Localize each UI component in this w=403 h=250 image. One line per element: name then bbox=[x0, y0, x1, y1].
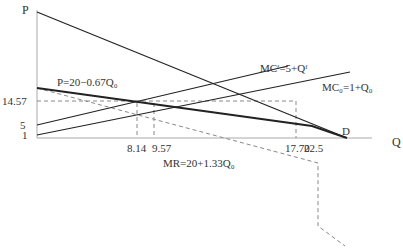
y-tick-14-57: 14.57 bbox=[2, 95, 27, 107]
x-axis-label: Q bbox=[392, 135, 401, 149]
mc-0-label: MC₀=1+Q₀ bbox=[322, 81, 373, 93]
y-tick-1: 1 bbox=[22, 129, 28, 141]
x-tick-8-14: 8.14 bbox=[127, 142, 147, 154]
d-label: D bbox=[342, 125, 350, 137]
economics-diagram: P Q 14.57 5 1 8.14 9.57 17.70 22.5 P=20−… bbox=[0, 0, 403, 250]
x-tick-9-57: 9.57 bbox=[152, 142, 172, 154]
demand-line-upper bbox=[37, 12, 347, 138]
x-tick-22-5: 22.5 bbox=[304, 142, 324, 154]
y-axis-label: P bbox=[22, 3, 29, 17]
demand-line-total bbox=[37, 88, 347, 138]
mc-f-label: MCᶠ=5+Qᶠ bbox=[260, 62, 308, 74]
mr-label: MR=20+1.33Q₀ bbox=[163, 157, 235, 169]
mc-f-curve bbox=[37, 66, 288, 125]
demand-total-label: P=20−0.67Q₀ bbox=[57, 76, 118, 88]
